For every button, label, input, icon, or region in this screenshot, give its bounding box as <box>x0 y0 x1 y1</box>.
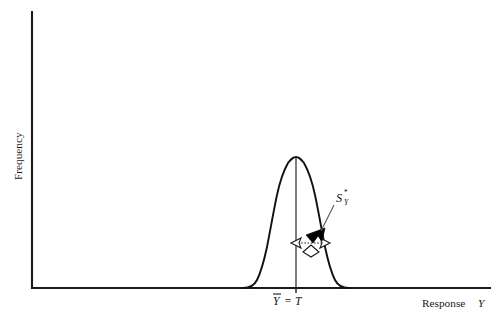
distribution-figure: S Y * Y = T Response Y Frequency <box>0 0 498 323</box>
figure-container: S Y * Y = T Response Y Frequency <box>0 0 498 323</box>
callout-leader-line <box>321 205 334 231</box>
x-tick-label-group: Y = T <box>273 294 303 308</box>
spread-symbol-label: S Y * <box>336 189 349 207</box>
y-axis-title-group: Frequency <box>12 132 24 180</box>
axes-group <box>32 12 490 288</box>
tick-label-mean: Y <box>273 295 281 308</box>
x-axis-title-variable: Y <box>478 297 486 309</box>
y-axis-title: Frequency <box>12 132 24 180</box>
spread-symbol-subscript: Y <box>344 198 349 207</box>
callout-solid-arrowhead-icon <box>306 228 325 243</box>
spread-diamond-icon <box>303 245 319 257</box>
spread-symbol-base: S <box>336 191 342 205</box>
spread-symbol-superscript: * <box>344 189 348 197</box>
tick-label-equals: = <box>284 295 292 308</box>
tick-label-target: T <box>295 295 303 308</box>
x-axis-title-group: Response Y <box>422 297 486 309</box>
x-axis-title-prefix: Response <box>422 297 465 309</box>
